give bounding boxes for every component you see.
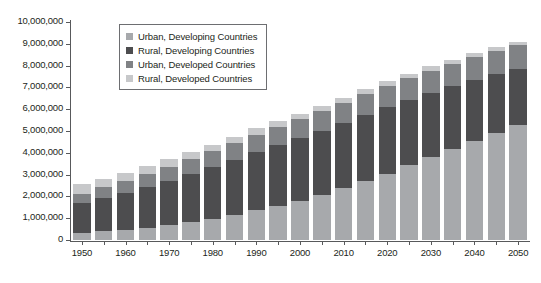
bar-segment xyxy=(204,219,221,240)
legend-label: Urban, Developing Countries xyxy=(138,31,257,42)
bar-segment xyxy=(160,167,177,181)
legend-item: Urban, Developing Countries xyxy=(126,29,257,43)
bar-segment xyxy=(117,230,134,240)
bar-column xyxy=(357,89,374,240)
bar-segment xyxy=(488,74,505,132)
x-tick-label: 1960 xyxy=(115,247,135,258)
bar-segment xyxy=(160,225,177,240)
bar-segment xyxy=(204,145,221,152)
legend-label: Urban, Developed Countries xyxy=(138,59,255,70)
bar-segment xyxy=(357,115,374,181)
x-tick-label: 1950 xyxy=(72,247,92,258)
bar-segment xyxy=(400,78,417,100)
x-tick-mark xyxy=(235,241,236,245)
y-tick-label: 5,000,000 xyxy=(23,124,63,135)
legend-label: Rural, Developing Countries xyxy=(138,45,254,56)
bar-column xyxy=(73,184,90,240)
bar-segment xyxy=(139,174,156,187)
bar-segment xyxy=(488,51,505,74)
bar-segment xyxy=(422,93,439,157)
bar-segment xyxy=(73,203,90,234)
x-tick-label: 2020 xyxy=(377,247,397,258)
bar-segment xyxy=(226,215,243,240)
x-axis-ticks: 1950196019701980199020002010202020302040… xyxy=(71,241,529,271)
bar-column xyxy=(139,166,156,240)
bar-segment xyxy=(95,198,112,231)
bar-segment xyxy=(226,137,243,143)
bar-segment xyxy=(466,141,483,240)
y-tick-mark xyxy=(66,44,70,45)
x-tick-label: 2010 xyxy=(333,247,353,258)
bar-column xyxy=(466,53,483,240)
bar-segment xyxy=(357,89,374,94)
y-tick-mark xyxy=(66,109,70,110)
bar-segment xyxy=(313,195,330,240)
bar-segment xyxy=(444,86,461,149)
y-tick-label: 0 xyxy=(58,233,63,244)
x-tick-mark xyxy=(126,241,127,245)
legend-item: Rural, Developing Countries xyxy=(126,43,257,57)
chart-legend: Urban, Developing CountriesRural, Develo… xyxy=(119,24,267,90)
bar-segment xyxy=(73,233,90,240)
x-tick-mark xyxy=(344,241,345,245)
bar-segment xyxy=(509,45,526,69)
bar-segment xyxy=(160,181,177,225)
y-tick-label: 7,000,000 xyxy=(23,80,63,91)
bar-segment xyxy=(291,201,308,240)
x-tick-mark xyxy=(518,241,519,245)
bar-segment xyxy=(291,114,308,120)
bar-segment xyxy=(379,81,396,86)
bar-segment xyxy=(73,184,90,193)
y-tick-mark xyxy=(66,131,70,132)
bar-column xyxy=(95,179,112,240)
bar-segment xyxy=(139,166,156,174)
bar-segment xyxy=(269,127,286,145)
x-tick-mark xyxy=(278,241,279,245)
legend-item: Rural, Developed Countries xyxy=(126,71,257,85)
x-tick-mark xyxy=(300,241,301,245)
x-tick-mark xyxy=(256,241,257,245)
x-tick-mark xyxy=(409,241,410,245)
x-tick-mark xyxy=(431,241,432,245)
y-tick-label: 9,000,000 xyxy=(23,37,63,48)
bar-column xyxy=(269,121,286,240)
bar-segment xyxy=(422,71,439,93)
bar-segment xyxy=(444,64,461,87)
bar-segment xyxy=(160,159,177,166)
bar-segment xyxy=(313,131,330,195)
y-tick-mark xyxy=(66,240,70,241)
y-tick-mark xyxy=(66,196,70,197)
x-tick-mark xyxy=(453,241,454,245)
bar-segment xyxy=(204,167,221,219)
y-tick-mark xyxy=(66,175,70,176)
x-tick-label: 1990 xyxy=(246,247,266,258)
bar-segment xyxy=(117,173,134,181)
bar-column xyxy=(444,60,461,241)
bar-segment xyxy=(335,123,352,188)
bar-segment xyxy=(422,157,439,240)
x-tick-mark xyxy=(474,241,475,245)
bar-segment xyxy=(466,53,483,57)
bar-segment xyxy=(444,60,461,64)
bar-segment xyxy=(269,121,286,127)
bar-segment xyxy=(95,187,112,198)
bar-column xyxy=(313,106,330,240)
x-tick-label: 2050 xyxy=(508,247,528,258)
x-tick-label: 1970 xyxy=(159,247,179,258)
bar-segment xyxy=(226,143,243,160)
bar-segment xyxy=(400,74,417,79)
x-tick-mark xyxy=(191,241,192,245)
x-tick-mark xyxy=(213,241,214,245)
y-tick-mark xyxy=(66,87,70,88)
bar-segment xyxy=(73,194,90,203)
legend-swatch-icon xyxy=(126,33,133,40)
bar-segment xyxy=(422,66,439,70)
bar-segment xyxy=(335,103,352,123)
bar-column xyxy=(291,114,308,240)
bar-segment xyxy=(182,222,199,240)
legend-label: Rural, Developed Countries xyxy=(138,73,252,84)
x-tick-mark xyxy=(147,241,148,245)
x-tick-mark xyxy=(496,241,497,245)
bar-column xyxy=(182,152,199,240)
bar-segment xyxy=(379,107,396,173)
